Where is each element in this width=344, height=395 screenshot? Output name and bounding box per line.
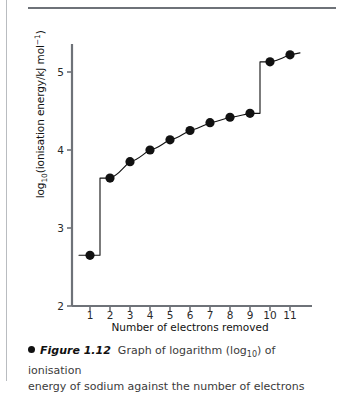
chart-data-points [85, 50, 294, 260]
figure-number: Figure 1.12 [40, 344, 111, 357]
data-point [225, 113, 234, 122]
x-tick-label: 5 [160, 309, 180, 321]
caption-subscript: 10 [247, 350, 257, 359]
x-tick-label: 7 [200, 309, 220, 321]
data-point [85, 251, 94, 260]
chart-axes [67, 44, 312, 311]
chart-step-line [79, 53, 300, 255]
y-tick-label: 4 [42, 144, 64, 156]
x-tick-label: 6 [180, 309, 200, 321]
y-tick-label: 5 [42, 66, 64, 78]
x-tick-label: 3 [120, 309, 140, 321]
figure-block: log10(ionisation energy/kJ mol−1) Number… [0, 10, 344, 340]
x-tick-label: 11 [280, 309, 300, 321]
x-tick-label: 1 [80, 309, 100, 321]
figure-caption: Figure 1.12 Graph of logarithm (log10) o… [28, 343, 328, 395]
data-point [185, 126, 194, 135]
bullet-icon [28, 346, 35, 353]
data-point [245, 109, 254, 118]
data-point [165, 135, 174, 144]
y-tick-label: 3 [42, 222, 64, 234]
data-point [285, 50, 294, 59]
x-tick-label: 8 [220, 309, 240, 321]
data-point [205, 118, 214, 127]
caption-line-2: energy of sodium against the number of e… [28, 379, 328, 395]
data-point [145, 145, 154, 154]
data-point [265, 57, 274, 66]
x-tick-label: 9 [240, 309, 260, 321]
x-tick-label: 4 [140, 309, 160, 321]
caption-text-1: Graph of logarithm (log [118, 344, 247, 357]
x-tick-label: 2 [100, 309, 120, 321]
data-point [125, 157, 134, 166]
x-tick-label: 10 [260, 309, 280, 321]
chart-canvas [0, 10, 344, 340]
top-horizontal-rule [28, 7, 336, 9]
data-point [105, 173, 114, 182]
y-tick-label: 2 [42, 300, 64, 312]
